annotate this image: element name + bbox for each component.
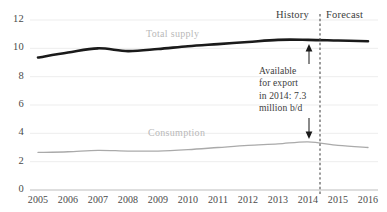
callout-line-1: Available [259, 65, 306, 77]
y-axis-tick-label: 6 [2, 98, 24, 109]
x-axis-tick-label: 2016 [351, 194, 385, 205]
forecast-label: Forecast [326, 9, 363, 20]
x-axis-tick-label: 2010 [171, 194, 205, 205]
x-axis-tick-label: 2008 [111, 194, 145, 205]
x-axis-tick-label: 2014 [291, 194, 325, 205]
y-axis-tick-label: 8 [2, 70, 24, 81]
series-label-consumption: Consumption [148, 127, 205, 138]
available-for-export-callout: Available for export in 2014: 7.3 millio… [259, 65, 306, 115]
callout-line-2: for export [259, 77, 306, 89]
callout-line-3: in 2014: 7.3 [259, 90, 306, 102]
history-label: History [276, 9, 309, 20]
series-label-total-supply: Total supply [146, 28, 199, 39]
y-axis-tick-label: 0 [2, 183, 24, 194]
x-axis-tick-label: 2013 [261, 194, 295, 205]
x-axis-tick-label: 2007 [81, 194, 115, 205]
y-axis-tick-label: 12 [2, 13, 24, 24]
x-axis-tick-label: 2011 [201, 194, 235, 205]
y-axis-tick-label: 2 [2, 155, 24, 166]
available-for-export-arrow [306, 44, 313, 139]
x-axis-tick-label: 2012 [231, 194, 265, 205]
callout-line-4: million b/d [259, 102, 306, 114]
x-axis-tick-label: 2005 [21, 194, 55, 205]
y-axis-tick-label: 4 [2, 126, 24, 137]
x-axis-tick-label: 2015 [321, 194, 355, 205]
consumption-line [38, 142, 368, 153]
y-axis-tick-label: 10 [2, 41, 24, 52]
x-axis-tick-label: 2009 [141, 194, 175, 205]
chart-container: 024681012 200520062007200820092010201120… [0, 0, 387, 212]
x-axis-tick-label: 2006 [51, 194, 85, 205]
